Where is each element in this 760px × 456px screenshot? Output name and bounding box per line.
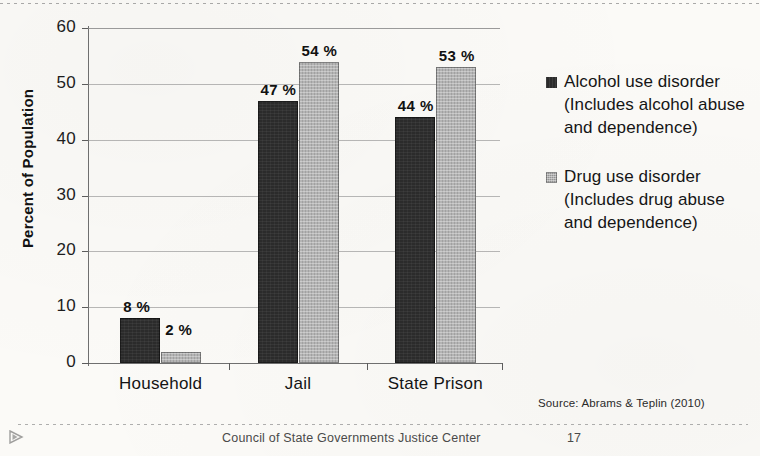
y-tick-label: 20 [32, 240, 76, 260]
plot-area: 8 %2 %47 %54 %44 %53 % [88, 28, 500, 363]
y-tick-label: 30 [32, 185, 76, 205]
bar-jail-drug[interactable] [299, 62, 339, 364]
play-triangle-icon [8, 430, 24, 444]
legend-label-drug: Drug use disorder (Includes drug abuse a… [546, 165, 752, 234]
x-axis-line [88, 363, 502, 364]
x-category-label: Household [91, 374, 231, 394]
bar-value-label: 54 % [302, 42, 338, 59]
footer-page-number: 17 [567, 431, 581, 445]
bar-household-drug[interactable] [161, 352, 201, 363]
legend-swatch-alcohol-icon [546, 77, 557, 88]
source-note: Source: Abrams & Teplin (2010) [538, 397, 705, 409]
bar-value-label: 44 % [398, 97, 434, 114]
legend-item-drug[interactable]: Drug use disorder (Includes drug abuse a… [546, 165, 752, 234]
bar-household-alcohol[interactable] [120, 318, 160, 363]
footer-divider-rule [18, 424, 748, 425]
bar-jail-alcohol[interactable] [258, 101, 298, 363]
x-tick-mark [502, 363, 503, 370]
x-category-label: State Prison [365, 374, 505, 394]
x-tick-mark [367, 363, 368, 370]
bar-state-prison-alcohol[interactable] [395, 117, 435, 363]
bar-value-label: 47 % [261, 81, 297, 98]
y-tick-label: 10 [32, 296, 76, 316]
footer-organization: Council of State Governments Justice Cen… [222, 431, 481, 445]
slide-canvas: Percent of Population 6050403020100 8 %2… [0, 0, 760, 456]
chart-legend: Alcohol use disorder (Includes alcohol a… [546, 70, 752, 260]
legend-swatch-drug-icon [546, 172, 557, 183]
top-divider-rule [0, 3, 760, 4]
bar-value-label: 8 % [123, 298, 150, 315]
bar-value-label: 53 % [439, 47, 475, 64]
y-tick-label: 40 [32, 129, 76, 149]
legend-item-alcohol[interactable]: Alcohol use disorder (Includes alcohol a… [546, 70, 752, 139]
x-category-label: Jail [228, 374, 368, 394]
y-tick-mark [82, 363, 89, 364]
y-tick-label: 50 [32, 73, 76, 93]
bar-value-label: 2 % [165, 321, 192, 338]
y-tick-label: 0 [32, 352, 76, 372]
bar-state-prison-drug[interactable] [436, 67, 476, 363]
x-tick-mark [229, 363, 230, 370]
gridline [88, 28, 500, 29]
legend-label-alcohol: Alcohol use disorder (Includes alcohol a… [546, 70, 752, 139]
y-tick-label: 60 [32, 17, 76, 37]
